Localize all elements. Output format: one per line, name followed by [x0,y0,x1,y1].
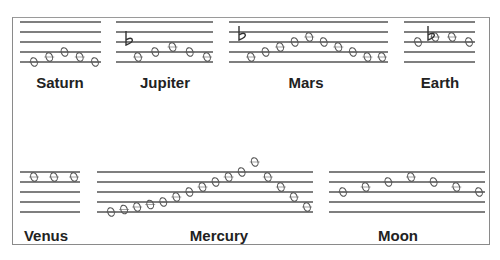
staff-venus: Venus [20,172,80,244]
staff-label: Jupiter [140,74,190,91]
planet-melodies-diagram: SaturnJupiterMarsEarthVenusMercuryMoon [0,0,500,260]
staff-label: Venus [24,227,68,244]
staff-mars: Mars [229,22,388,91]
staff-label: Moon [378,227,418,244]
staff-label: Mars [288,74,323,91]
flat-sign [239,26,245,40]
staff-earth: Earth [404,22,475,91]
flat-sign [126,31,132,45]
staff-saturn: Saturn [20,22,101,91]
staff-moon: Moon [329,172,485,244]
flat-sign [428,26,434,40]
staff-label: Earth [421,74,459,91]
staff-label: Mercury [190,227,249,244]
staff-mercury: Mercury [97,157,313,244]
staff-jupiter: Jupiter [116,22,213,91]
staves-layer: SaturnJupiterMarsEarthVenusMercuryMoon [20,22,485,244]
staff-label: Saturn [36,74,84,91]
